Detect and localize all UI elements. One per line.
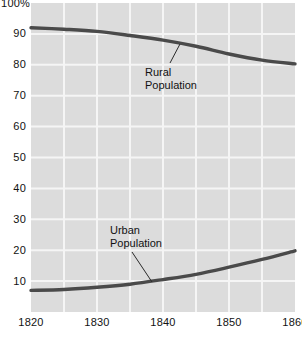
rural-population-label: Rural Population <box>145 66 197 91</box>
y-axis-tick-90: 90 <box>13 28 26 39</box>
urban-population-label: Urban Population <box>110 224 162 249</box>
y-axis-tick-20: 20 <box>13 245 26 256</box>
rural-leader-line <box>170 44 180 63</box>
rural-label-line1: Rural <box>145 66 197 79</box>
y-axis-tick-40: 40 <box>13 183 26 194</box>
y-axis-tick-80: 80 <box>13 59 26 70</box>
y-axis-tick-60: 60 <box>13 121 26 132</box>
urban-label-line2: Population <box>110 237 162 250</box>
y-axis-tick-100: 100% <box>1 0 30 9</box>
y-axis-tick-50: 50 <box>13 152 26 163</box>
y-axis-tick-10: 10 <box>13 276 26 287</box>
x-axis-tick-1840: 1840 <box>150 317 175 328</box>
annotation-leader-lines <box>0 0 302 338</box>
x-axis-tick-1830: 1830 <box>84 317 109 328</box>
urban-label-line1: Urban <box>110 224 162 237</box>
y-axis-tick-30: 30 <box>13 214 26 225</box>
x-axis-tick-1850: 1850 <box>216 317 241 328</box>
rural-label-line2: Population <box>145 79 197 92</box>
y-axis-tick-70: 70 <box>13 90 26 101</box>
population-line-chart: 100% 90 80 70 60 50 40 30 20 10 1820 183… <box>0 0 302 338</box>
x-axis-tick-1820: 1820 <box>18 317 43 328</box>
x-axis-tick-1860: 1860 <box>282 317 302 328</box>
urban-leader-line <box>132 252 152 282</box>
